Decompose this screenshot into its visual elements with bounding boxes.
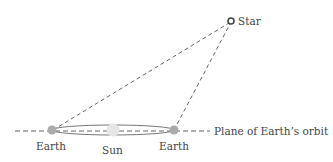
parallax-diagram: Star Earth Sun Earth Plane of Earth’s or… <box>0 0 333 162</box>
sight-line-left <box>53 23 229 130</box>
star-label: Star <box>238 15 262 27</box>
orbit-plane-label: Plane of Earth’s orbit <box>214 125 329 137</box>
earth-left-label: Earth <box>36 140 66 152</box>
star-icon <box>228 18 234 24</box>
sun-icon <box>107 124 120 137</box>
earth-left-icon <box>48 126 57 135</box>
sun-label: Sun <box>102 144 123 156</box>
sight-line-right <box>174 24 230 130</box>
earth-right-label: Earth <box>159 140 189 152</box>
earth-right-icon <box>170 126 179 135</box>
